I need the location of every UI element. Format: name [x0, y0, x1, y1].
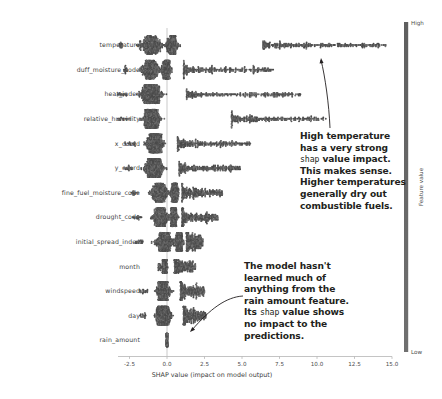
shap-point: [178, 216, 180, 218]
shap-point: [166, 263, 168, 265]
shap-point: [244, 66, 246, 68]
shap-point: [264, 96, 266, 98]
rain-amount-annotation-line: anything from the: [244, 284, 384, 296]
rain-amount-annotation-line: no impact to the: [244, 319, 384, 331]
shap-point: [183, 243, 185, 245]
shap-point: [156, 64, 158, 66]
shap-point: [225, 66, 227, 68]
shap-point: [159, 269, 161, 271]
x-tick-label: 2.5: [200, 361, 209, 367]
shap-point: [225, 166, 227, 168]
shap-point: [157, 52, 159, 54]
shap-point: [165, 221, 167, 223]
shap-point: [144, 36, 146, 38]
shap-point: [232, 70, 234, 72]
shap-point: [123, 119, 125, 121]
shap-point: [161, 151, 163, 153]
shap-point: [269, 118, 271, 120]
shap-point: [158, 86, 160, 88]
shap-point: [166, 333, 168, 335]
shap-point: [176, 48, 178, 50]
shap-point: [164, 201, 166, 203]
shap-point: [169, 232, 171, 234]
shap-point: [194, 310, 196, 312]
shap-point: [195, 96, 197, 98]
shap-point: [202, 238, 204, 240]
shap-point: [190, 322, 192, 324]
shap-point: [269, 41, 271, 43]
shap-point: [181, 233, 183, 235]
shap-point: [168, 295, 170, 297]
shap-point: [220, 146, 222, 148]
shap-point: [156, 84, 158, 86]
shap-point: [209, 195, 211, 197]
shap-point: [216, 189, 218, 191]
shap-point: [197, 146, 199, 148]
shap-point: [191, 91, 193, 93]
shap-point: [157, 126, 159, 128]
shap-point: [181, 250, 183, 252]
shap-point: [164, 225, 166, 227]
shap-point: [219, 189, 221, 191]
shap-point: [246, 69, 248, 71]
shap-point: [200, 96, 202, 98]
shap-point: [173, 290, 175, 292]
shap-point: [305, 48, 307, 50]
shap-point: [163, 140, 165, 142]
shap-point: [195, 188, 197, 190]
shap-point: [160, 173, 162, 175]
shap-point: [181, 299, 183, 301]
shap-point: [175, 207, 177, 209]
shap-point: [137, 242, 139, 244]
shap-point: [121, 47, 123, 49]
shap-point: [217, 215, 219, 217]
shap-point: [136, 242, 138, 244]
shap-point: [138, 219, 140, 221]
shap-point: [163, 145, 165, 147]
shap-point: [166, 272, 168, 274]
shap-point: [128, 164, 130, 166]
temperature-annotation-line: shap value impact.: [300, 154, 425, 166]
code-token: shap: [300, 154, 319, 164]
annotation-text: High temperature: [300, 131, 390, 141]
shap-point: [183, 224, 185, 226]
shap-point: [177, 137, 179, 139]
shap-point: [140, 313, 142, 315]
shap-point: [246, 115, 248, 117]
shap-point: [170, 312, 172, 314]
shap-point: [229, 144, 231, 146]
shap-point: [216, 141, 218, 143]
shap-point: [196, 282, 198, 284]
shap-point: [192, 285, 194, 287]
shap-point: [187, 271, 189, 273]
shap-point: [144, 317, 146, 319]
shap-point: [237, 93, 239, 95]
x-axis-title: SHAP value (impact on model output): [152, 371, 273, 379]
colorbar-high-label: High: [411, 20, 424, 27]
feature-label-initial-spread-index: initial_spread_index: [76, 238, 140, 246]
shap-point: [131, 167, 133, 169]
shap-point: [186, 88, 188, 90]
shap-point: [187, 310, 189, 312]
shap-point: [193, 296, 195, 298]
x-tick-label: -2.5: [124, 361, 135, 367]
shap-point: [253, 66, 255, 68]
shap-point: [188, 249, 190, 251]
shap-point: [352, 45, 354, 47]
shap-point: [262, 67, 264, 69]
shap-point: [234, 71, 236, 73]
shap-point: [126, 95, 128, 97]
shap-point: [196, 70, 198, 72]
shap-point: [221, 190, 223, 192]
shap-point: [225, 145, 227, 147]
rain-amount-annotation-line: learned much of: [244, 273, 384, 285]
shap-point: [225, 168, 227, 170]
code-token: shap: [260, 307, 279, 317]
shap-point: [181, 200, 183, 202]
shap-point: [169, 249, 171, 251]
shap-point: [217, 219, 219, 221]
shap-point: [168, 321, 170, 323]
shap-point: [215, 170, 217, 172]
shap-point: [163, 118, 165, 120]
shap-point: [165, 340, 167, 342]
